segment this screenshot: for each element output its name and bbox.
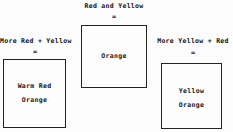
color-mixing-diagram: Red and Yellow = Orange More Red + Yello…	[0, 0, 233, 132]
box-text-line: Orange	[4, 97, 65, 104]
label-red-and-yellow: Red and Yellow	[62, 3, 166, 10]
result-box-orange: Orange	[81, 25, 147, 88]
equals-sign-center: =	[62, 14, 166, 21]
box-text-line: Orange	[162, 102, 221, 109]
box-text-line: Yellow	[162, 88, 221, 95]
result-box-yellow-orange: Yellow Orange	[161, 63, 222, 129]
equals-sign-left: =	[0, 49, 70, 56]
equals-sign-right: =	[153, 50, 233, 57]
result-box-warm-red-orange: Warm Red Orange	[3, 59, 66, 128]
box-text-line: Warm Red	[4, 83, 65, 90]
box-text-line: Orange	[82, 53, 146, 60]
label-more-red-plus-yellow: More Red + Yellow	[0, 38, 70, 45]
label-more-yellow-plus-red: More Yellow + Red	[153, 38, 233, 45]
